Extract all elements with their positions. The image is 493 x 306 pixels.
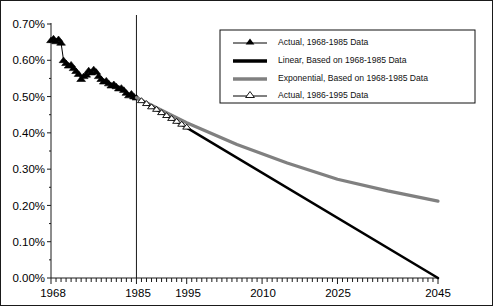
legend-label: Exponential, Based on 1968-1985 Data	[278, 73, 428, 83]
x-tick-label: 1968	[40, 287, 66, 299]
x-tick-label: 2010	[250, 287, 276, 299]
x-tick-label: 1985	[125, 287, 151, 299]
y-tick-label: 0.30%	[12, 163, 45, 175]
legend-label: Actual, 1968-1985 Data	[278, 37, 369, 47]
legend-label: Linear, Based on 1968-1985 Data	[278, 55, 407, 65]
y-tick-label: 0.10%	[12, 236, 45, 248]
y-tick-label: 0.60%	[12, 54, 45, 66]
x-tick-label: 2025	[325, 287, 351, 299]
y-tick-label: 0.40%	[12, 127, 45, 139]
series-line-2	[136, 98, 438, 201]
y-tick-label: 0.50%	[12, 91, 45, 103]
y-tick-label: 0.70%	[12, 18, 45, 30]
chart-legend: Actual, 1968-1985 Data Linear, Based on …	[220, 30, 475, 103]
y-axis-labels: 0.70% 0.60% 0.50% 0.40% 0.30% 0.20% 0.10…	[12, 18, 45, 284]
x-axis-labels: 1968 1985 1995 2010 2025 2045	[40, 287, 451, 299]
y-tick-label: 0.20%	[12, 200, 45, 212]
x-tick-label: 1995	[175, 287, 201, 299]
chart-frame: 0.70% 0.60% 0.50% 0.40% 0.30% 0.20% 0.10…	[0, 0, 493, 306]
legend-label: Actual, 1986-1995 Data	[278, 90, 369, 100]
y-tick-label: 0.00%	[12, 272, 45, 284]
chart-canvas: 0.70% 0.60% 0.50% 0.40% 0.30% 0.20% 0.10…	[1, 1, 493, 306]
x-tick-label: 2045	[425, 287, 451, 299]
